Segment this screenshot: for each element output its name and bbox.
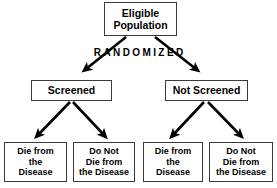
node-outcome-screened-not-die-label: Do Not Die from the Disease [74, 146, 134, 178]
arrow-screened-to-not-die [73, 102, 104, 135]
node-not-screened-label: Not Screened [166, 84, 247, 96]
node-outcome-screened-not-die: Do Not Die from the Disease [73, 142, 135, 182]
node-outcome-screened-die: Die from the Disease [4, 142, 67, 182]
node-outcome-not-screened-not-die: Do Not Die from the Disease [209, 142, 273, 182]
randomized-trial-flowchart: Eligible Population RANDOMIZED Screened … [0, 0, 277, 188]
node-outcome-screened-die-label: Die from the Disease [5, 146, 66, 178]
node-outcome-not-screened-not-die-label: Do Not Die from the Disease [210, 146, 272, 178]
node-not-screened: Not Screened [165, 80, 248, 101]
node-eligible-population: Eligible Population [104, 2, 177, 36]
node-screened: Screened [31, 80, 112, 101]
node-outcome-not-screened-die-label: Die from the Disease [144, 146, 202, 178]
node-eligible-population-label: Eligible Population [105, 7, 176, 32]
arrow-screened-to-die [38, 102, 70, 135]
arrow-not-screened-to-die [173, 102, 204, 135]
arrow-not-screened-to-not-die [208, 102, 240, 135]
node-screened-label: Screened [32, 84, 111, 96]
randomized-label: RANDOMIZED [0, 47, 277, 58]
node-outcome-not-screened-die: Die from the Disease [143, 142, 203, 182]
